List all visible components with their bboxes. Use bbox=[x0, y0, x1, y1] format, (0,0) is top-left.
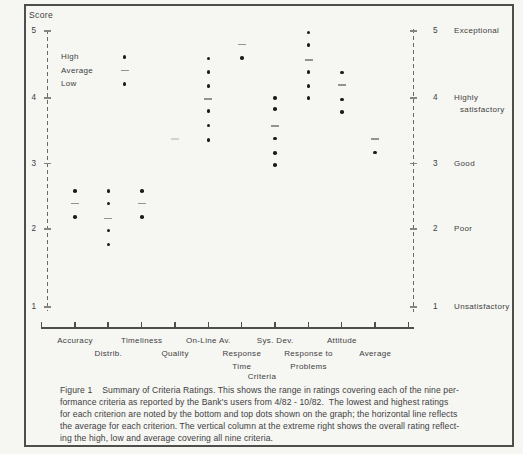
right-axis-tick bbox=[410, 228, 417, 230]
caption-line: formance criteria as reported by the Ban… bbox=[60, 396, 459, 408]
criteria-axis-line bbox=[41, 327, 414, 329]
criteria-axis-tick bbox=[374, 322, 376, 328]
right-score-number: 2 bbox=[433, 224, 438, 234]
legend-item-label: Average bbox=[61, 66, 93, 76]
left-axis-tick bbox=[44, 228, 51, 230]
rating-dot bbox=[273, 107, 277, 111]
low-rating-dot bbox=[73, 215, 77, 219]
rating-dot bbox=[240, 56, 244, 60]
legend-dot-icon bbox=[123, 82, 127, 86]
average-dash-mark bbox=[171, 138, 179, 140]
left-score-axis bbox=[47, 30, 48, 311]
high-rating-dot bbox=[107, 189, 111, 193]
high-rating-dot bbox=[340, 71, 344, 75]
criterion-label: Attitude bbox=[297, 336, 387, 346]
right-score-axis bbox=[413, 29, 414, 312]
criteria-axis-tick bbox=[241, 322, 243, 328]
rating-label: Exceptional bbox=[454, 26, 499, 36]
left-score-number: 5 bbox=[25, 26, 36, 36]
rating-label: Poor bbox=[454, 224, 472, 234]
rating-label: Unsatisfactory bbox=[454, 302, 510, 312]
rating-label: satisfactory bbox=[460, 105, 505, 115]
right-axis-tick bbox=[410, 163, 417, 165]
average-dash-mark bbox=[305, 59, 313, 61]
criteria-axis-title: Criteria bbox=[232, 372, 292, 382]
criteria-axis-tick bbox=[408, 322, 410, 328]
right-score-number: 5 bbox=[433, 26, 438, 36]
high-rating-dot bbox=[73, 189, 77, 193]
low-rating-dot bbox=[307, 96, 311, 100]
figure-caption: Figure 1 Summary of Criteria Ratings. Th… bbox=[60, 384, 459, 444]
criteria-axis-tick bbox=[141, 322, 143, 328]
legend-dot-icon bbox=[123, 55, 127, 59]
rating-dot bbox=[373, 151, 377, 155]
right-axis-tick bbox=[410, 306, 417, 308]
left-axis-tick bbox=[44, 163, 51, 165]
average-dash-mark bbox=[271, 125, 279, 127]
average-dash-mark bbox=[71, 203, 79, 205]
average-dash-mark bbox=[338, 84, 346, 86]
caption-line: Figure 1 Summary of Criteria Ratings. Th… bbox=[60, 384, 459, 396]
right-score-number: 1 bbox=[433, 302, 438, 312]
criteria-axis-tick bbox=[308, 322, 310, 328]
left-axis-tick bbox=[44, 97, 51, 99]
figure-1-criteria-ratings: Score Criteria Figure 1 Summary of Crite… bbox=[0, 0, 523, 454]
caption-line: the average for each criterion. The vert… bbox=[60, 420, 459, 432]
low-rating-dot bbox=[340, 110, 344, 114]
right-score-number: 3 bbox=[433, 159, 438, 169]
average-dash-mark bbox=[204, 98, 212, 100]
score-axis-title: Score bbox=[29, 10, 53, 20]
rating-dot bbox=[307, 84, 311, 88]
legend-dash-icon bbox=[121, 70, 129, 72]
left-score-number: 4 bbox=[25, 93, 36, 103]
criteria-axis-tick bbox=[341, 322, 343, 328]
average-dash-mark bbox=[138, 203, 146, 205]
low-rating-dot bbox=[140, 215, 144, 219]
high-rating-dot bbox=[140, 189, 144, 193]
criteria-axis-tick bbox=[74, 322, 76, 328]
right-axis-tick bbox=[410, 30, 417, 32]
average-dash-mark bbox=[238, 44, 246, 46]
high-rating-dot bbox=[273, 96, 277, 100]
legend-item-label: High bbox=[61, 52, 79, 62]
criterion-label: Problems bbox=[264, 362, 354, 372]
rating-dot bbox=[340, 98, 344, 102]
criterion-label: Average bbox=[330, 349, 420, 359]
caption-line: for each criterion are noted by the bott… bbox=[60, 408, 459, 420]
right-axis-tick bbox=[410, 97, 417, 99]
criteria-axis-tick bbox=[208, 322, 210, 328]
left-axis-tick bbox=[44, 306, 51, 308]
right-score-number: 4 bbox=[433, 93, 438, 103]
rating-dot bbox=[207, 70, 211, 74]
rating-dot bbox=[207, 109, 211, 113]
left-score-number: 1 bbox=[25, 302, 36, 312]
low-rating-dot bbox=[207, 138, 211, 142]
average-dash-mark bbox=[371, 138, 379, 140]
low-rating-dot bbox=[273, 163, 277, 167]
criteria-axis-tick bbox=[274, 322, 276, 328]
rating-label: Good bbox=[454, 159, 475, 169]
rating-dot bbox=[273, 151, 277, 155]
left-score-number: 2 bbox=[25, 224, 36, 234]
average-dash-mark bbox=[104, 218, 112, 220]
caption-line: ing the high, low and average covering a… bbox=[60, 432, 459, 444]
left-axis-tick bbox=[44, 30, 51, 32]
rating-dot bbox=[207, 84, 211, 88]
criteria-axis-tick bbox=[107, 322, 109, 328]
rating-label: Highly bbox=[454, 93, 478, 103]
left-score-number: 3 bbox=[25, 159, 36, 169]
rating-dot bbox=[307, 70, 311, 74]
criteria-axis-tick bbox=[41, 322, 43, 328]
legend-item-label: Low bbox=[61, 79, 77, 89]
criteria-axis-tick bbox=[174, 322, 176, 328]
